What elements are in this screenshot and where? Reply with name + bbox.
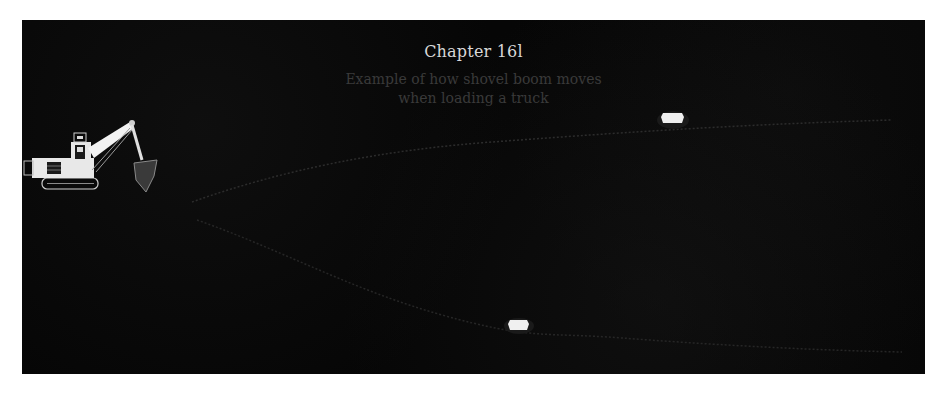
- truck-icon-upper: [657, 111, 689, 129]
- scene-canvas: [22, 20, 925, 374]
- shovel-excavator-icon: [24, 120, 157, 192]
- haul-path-upper: [192, 120, 892, 202]
- haul-path-lower: [197, 220, 902, 352]
- animation-frame: Chapter 16l Example of how shovel boom m…: [22, 20, 925, 374]
- truck-icon-lower: [504, 318, 534, 334]
